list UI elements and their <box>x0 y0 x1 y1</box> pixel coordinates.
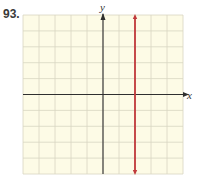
x-axis-label: x <box>186 89 192 101</box>
coordinate-graph: x y <box>0 0 201 192</box>
y-axis-label: y <box>99 1 105 13</box>
